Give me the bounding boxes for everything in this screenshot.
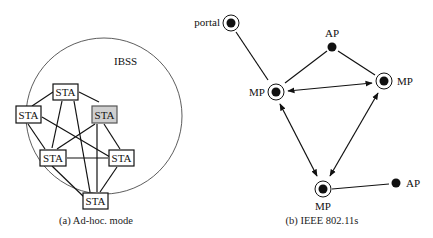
adhoc-diagram: IBSS STA STA STA bbox=[16, 38, 182, 227]
portal-node: portal bbox=[194, 15, 239, 31]
svg-text:MP: MP bbox=[397, 75, 413, 87]
mp-right-node: MP bbox=[376, 73, 413, 89]
ap-top-node: AP bbox=[325, 27, 339, 52]
mp-bottom-node: MP bbox=[315, 181, 331, 212]
svg-text:portal: portal bbox=[194, 16, 220, 28]
svg-text:STA: STA bbox=[86, 195, 106, 207]
svg-text:STA: STA bbox=[19, 109, 39, 121]
sta-mid-right: STA bbox=[109, 150, 134, 166]
network-diagram: IBSS STA STA STA bbox=[0, 0, 433, 238]
mesh-diagram: portal MP AP MP MP AP (b) IEEE 802.11s bbox=[194, 15, 420, 227]
svg-text:AP: AP bbox=[406, 177, 420, 189]
sta-highlighted: STA bbox=[92, 106, 117, 123]
svg-text:AP: AP bbox=[325, 27, 339, 39]
svg-text:STA: STA bbox=[56, 86, 76, 98]
mesh-links bbox=[236, 32, 389, 189]
sta-left: STA bbox=[16, 106, 41, 123]
ibss-label: IBSS bbox=[114, 55, 137, 67]
ap-right-node: AP bbox=[392, 177, 421, 189]
caption-adhoc: (a) Ad-hoc. mode bbox=[59, 215, 133, 227]
svg-text:STA: STA bbox=[112, 152, 132, 164]
svg-text:STA: STA bbox=[95, 109, 115, 121]
svg-text:MP: MP bbox=[249, 86, 265, 98]
sta-bottom: STA bbox=[83, 193, 108, 209]
mp-left-node: MP bbox=[249, 84, 284, 100]
caption-mesh: (b) IEEE 802.11s bbox=[286, 215, 359, 227]
sta-top: STA bbox=[53, 84, 78, 100]
svg-text:MP: MP bbox=[315, 200, 331, 212]
sta-mid-left: STA bbox=[40, 150, 66, 166]
svg-text:STA: STA bbox=[43, 152, 63, 164]
